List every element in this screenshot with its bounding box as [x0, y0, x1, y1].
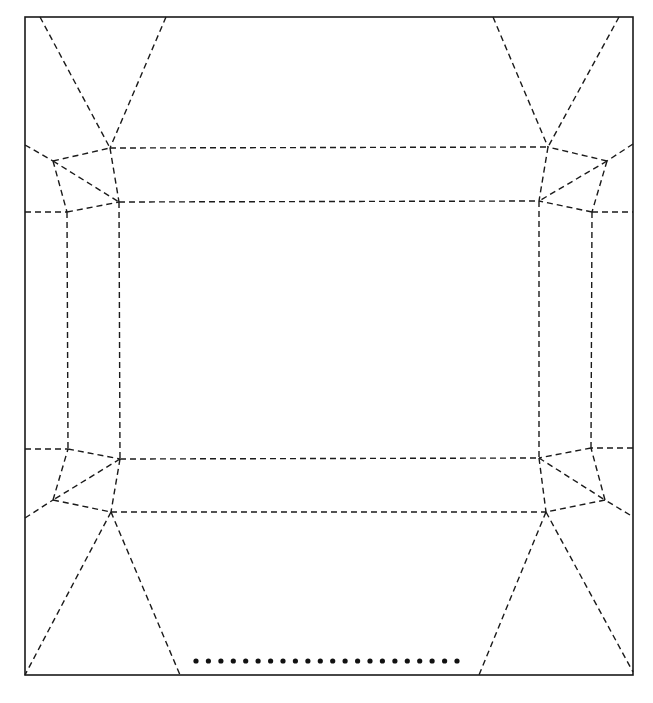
dotted-reference-row	[193, 658, 459, 663]
crease-line	[110, 147, 548, 148]
crease-line	[605, 500, 630, 515]
crease-line	[53, 161, 119, 202]
paper-square-outline	[25, 17, 633, 675]
crease-line	[539, 458, 605, 500]
crease-line	[539, 448, 591, 458]
crease-line	[25, 145, 53, 161]
crease-line	[479, 512, 546, 675]
crease-line	[546, 500, 605, 512]
dot-marker	[330, 658, 335, 663]
dot-marker	[380, 658, 385, 663]
dot-marker	[367, 658, 372, 663]
dot-marker	[430, 658, 435, 663]
dot-marker	[355, 658, 360, 663]
crease-line	[67, 212, 68, 449]
crease-line	[53, 500, 111, 512]
crease-line	[120, 458, 539, 459]
crease-line	[607, 144, 633, 161]
dot-marker	[218, 658, 223, 663]
dot-marker	[256, 658, 261, 663]
crease-line	[493, 17, 548, 147]
dot-marker	[193, 658, 198, 663]
dot-marker	[454, 658, 459, 663]
dot-marker	[268, 658, 273, 663]
crease-line	[548, 17, 619, 147]
crease-lines	[25, 17, 633, 675]
dot-marker	[243, 658, 248, 663]
dot-marker	[293, 658, 298, 663]
dot-marker	[417, 658, 422, 663]
crease-line	[539, 201, 592, 212]
dot-marker	[231, 658, 236, 663]
crease-line	[111, 459, 120, 512]
crease-line	[591, 212, 592, 448]
dot-marker	[405, 658, 410, 663]
crease-line	[25, 512, 111, 675]
crease-line	[67, 202, 119, 212]
crease-line	[110, 148, 119, 202]
crease-line	[111, 512, 180, 675]
crease-line	[53, 148, 110, 161]
crease-line	[53, 459, 120, 500]
crease-line	[68, 449, 120, 459]
dot-marker	[392, 658, 397, 663]
crease-line	[539, 458, 546, 512]
crease-line	[548, 147, 607, 161]
dot-marker	[305, 658, 310, 663]
crease-line	[25, 500, 53, 518]
crease-line	[40, 17, 110, 148]
dot-marker	[343, 658, 348, 663]
dot-marker	[318, 658, 323, 663]
dot-marker	[442, 658, 447, 663]
crease-pattern-diagram	[0, 0, 653, 703]
crease-line	[119, 202, 120, 459]
crease-line	[110, 17, 166, 148]
crease-line	[539, 147, 548, 201]
dot-marker	[206, 658, 211, 663]
dot-marker	[280, 658, 285, 663]
crease-line	[119, 201, 539, 202]
crease-line	[546, 512, 633, 672]
